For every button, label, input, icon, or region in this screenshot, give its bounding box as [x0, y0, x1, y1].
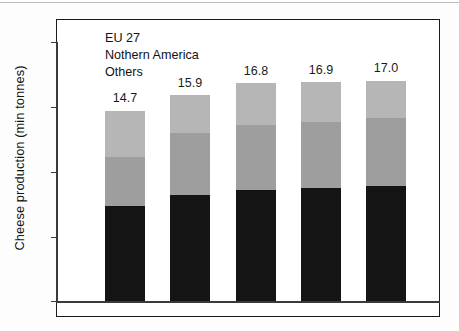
bar-segment-others[interactable] — [366, 81, 406, 119]
bar-segment-nothern-america[interactable] — [366, 118, 406, 185]
legend-label: Others — [105, 66, 143, 79]
bar-total-label: 17.0 — [356, 62, 416, 75]
legend-swatch-others — [68, 68, 97, 77]
bar-segment-eu27[interactable] — [236, 190, 276, 301]
chart-legend: EU 27 Nothern America Others — [68, 30, 218, 81]
stacked-bar[interactable] — [170, 95, 210, 301]
bar-segment-eu27[interactable] — [366, 186, 406, 301]
bar-segment-others[interactable] — [236, 83, 276, 124]
legend-item-others[interactable]: Others — [68, 64, 218, 81]
bar-total-label: 14.7 — [95, 92, 155, 105]
bar-segment-others[interactable] — [105, 111, 145, 158]
stacked-bar[interactable] — [105, 111, 145, 301]
legend-swatch-eu27 — [68, 34, 97, 43]
bar-segment-eu27[interactable] — [301, 188, 341, 301]
bar-total-label: 16.8 — [226, 65, 286, 78]
legend-item-eu27[interactable]: EU 27 — [68, 30, 218, 47]
stacked-bar[interactable] — [301, 82, 341, 301]
legend-item-nothern-america[interactable]: Nothern America — [68, 47, 218, 64]
bar-segment-eu27[interactable] — [170, 195, 210, 301]
y-axis-title: Cheese production (min tonnes) — [9, 9, 31, 307]
legend-label: Nothern America — [105, 49, 199, 62]
bar-segment-nothern-america[interactable] — [170, 133, 210, 195]
bar-total-label: 16.9 — [291, 64, 351, 77]
bar-segment-nothern-america[interactable] — [236, 125, 276, 190]
legend-swatch-nothern-america — [68, 51, 97, 60]
bar-segment-eu27[interactable] — [105, 206, 145, 301]
page-top-rule — [0, 2, 459, 3]
legend-label: EU 27 — [105, 32, 140, 45]
bar-segment-nothern-america[interactable] — [301, 122, 341, 188]
bar-segment-others[interactable] — [170, 95, 210, 133]
bar-segment-others[interactable] — [301, 82, 341, 122]
stacked-bar[interactable] — [366, 81, 406, 301]
chart-figure: Cheese production (min tonnes) 20 15 10 … — [0, 0, 459, 331]
stacked-bar[interactable] — [236, 83, 276, 301]
bar-segment-nothern-america[interactable] — [105, 157, 145, 206]
